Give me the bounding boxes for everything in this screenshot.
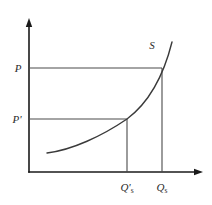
quantity-low-label-main: Q'	[120, 181, 131, 193]
quantity-high-label-sub: s	[165, 186, 168, 195]
x-axis-arrow-icon	[194, 169, 203, 175]
quantity-low-label-sub: s	[131, 186, 134, 195]
quantity-high-label-main: Q	[157, 181, 165, 193]
y-axis-arrow-icon	[26, 18, 32, 27]
quantity-high-label: Qs	[157, 181, 168, 195]
supply-curve-figure: S P P' Q's Qs	[0, 0, 212, 205]
price-high-label: P	[14, 62, 22, 74]
quantity-low-label: Q's	[120, 181, 133, 195]
price-low-label: P'	[11, 113, 22, 125]
supply-curve-label: S	[149, 39, 155, 51]
supply-curve-path	[47, 42, 172, 153]
supply-diagram-canvas: S P P' Q's Qs	[0, 0, 212, 205]
